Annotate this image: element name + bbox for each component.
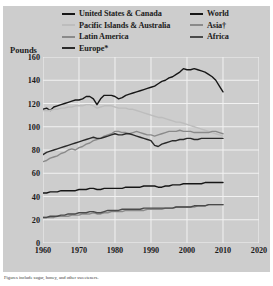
legend-item-europe: Europe*	[62, 43, 170, 55]
legend-swatch-us_canada	[62, 13, 75, 15]
x-axis-tick-2020: 2020	[251, 246, 267, 255]
legend-label-africa: Africa	[207, 31, 229, 42]
legend-swatch-asia	[190, 24, 203, 26]
chart-legend: United States & CanadaPacific Islands & …	[62, 8, 262, 54]
legend-label-us_canada: United States & Canada	[79, 8, 162, 19]
x-axis-tick-1980: 1980	[107, 246, 123, 255]
legend-item-us_canada: United States & Canada	[62, 8, 170, 20]
y-axis-tick-120: 120	[28, 99, 40, 108]
legend-swatch-pacific_australia	[62, 24, 75, 26]
legend-column-right: WorldAsia†Africa	[190, 8, 229, 43]
chart-figure: United States & CanadaPacific Islands & …	[0, 0, 273, 286]
legend-label-world: World	[207, 8, 229, 19]
legend-swatch-europe	[62, 47, 75, 49]
y-axis-tick-20: 20	[32, 215, 40, 224]
y-axis-tick-60: 60	[32, 169, 40, 178]
y-axis-tick-80: 80	[32, 146, 40, 155]
legend-swatch-africa	[190, 36, 203, 38]
y-axis-tick-140: 140	[28, 76, 40, 85]
x-axis-tick-1960: 1960	[35, 246, 51, 255]
legend-item-asia: Asia†	[190, 20, 229, 32]
legend-swatch-latin_america	[62, 36, 75, 38]
plot-area: 0204060801001201401601960197019801990200…	[43, 57, 259, 243]
x-axis-tick-1970: 1970	[71, 246, 87, 255]
legend-swatch-world	[190, 13, 203, 15]
legend-item-world: World	[190, 8, 229, 20]
y-axis-tick-40: 40	[32, 192, 40, 201]
x-axis-tick-1990: 1990	[143, 246, 159, 255]
y-axis-tick-100: 100	[28, 122, 40, 131]
legend-label-pacific_australia: Pacific Islands & Australia	[79, 20, 170, 31]
x-axis-tick-2010: 2010	[215, 246, 231, 255]
legend-label-latin_america: Latin America	[79, 31, 128, 42]
legend-label-asia: Asia†	[207, 20, 226, 31]
chart-footnote: Figures include sugar, honey, and other …	[4, 275, 99, 280]
legend-column-left: United States & CanadaPacific Islands & …	[62, 8, 170, 54]
x-axis-tick-2000: 2000	[179, 246, 195, 255]
legend-item-pacific_australia: Pacific Islands & Australia	[62, 20, 170, 32]
legend-label-europe: Europe*	[79, 43, 108, 54]
chart-lines-svg	[43, 57, 259, 243]
y-axis-tick-160: 160	[28, 53, 40, 62]
legend-item-africa: Africa	[190, 31, 229, 43]
legend-item-latin_america: Latin America	[62, 31, 170, 43]
